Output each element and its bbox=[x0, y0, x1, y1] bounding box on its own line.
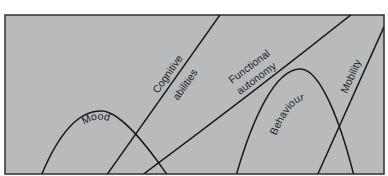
functional-decline-diagram: Mood Cognitive abilities Functional auto… bbox=[0, 0, 388, 176]
diagram-frame bbox=[5, 15, 384, 174]
